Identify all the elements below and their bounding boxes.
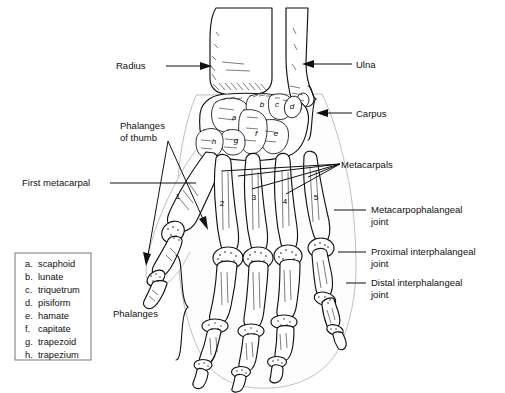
legend-key-g: g. — [25, 337, 33, 347]
metacarpal-number-5: 5 — [314, 193, 319, 202]
metacarpal-number-1: 1 — [176, 192, 181, 201]
legend-label-lunate: lunate — [38, 272, 63, 282]
carpal-marker-e: e — [274, 129, 279, 138]
label-ulna: Ulna — [356, 59, 376, 70]
legend-label-pisiform: pisiform — [38, 298, 71, 308]
legend-label-capitate: capitate — [38, 324, 71, 334]
carpal-bones-legend: a. scaphoid b. lunate c. triquetrum d. p… — [15, 253, 91, 360]
metacarpal-number-4: 4 — [283, 197, 288, 206]
label-pip-joint-line1: Proximal interphalangeal — [371, 246, 476, 257]
legend-key-c: c. — [25, 285, 32, 295]
label-mcp-joint-line1: Metacarpophalangeal — [371, 204, 462, 215]
legend-key-e: e. — [25, 311, 33, 321]
legend-key-a: a. — [25, 259, 33, 269]
carpal-marker-g: g — [234, 136, 239, 145]
label-dip-joint-line1: Distal interphalangeal — [371, 277, 462, 288]
label-mcp-joint-line2: joint — [370, 216, 389, 227]
carpal-marker-d: d — [290, 102, 295, 111]
label-phalanges: Phalanges — [113, 308, 158, 319]
legend-label-trapezium: trapezium — [38, 350, 79, 360]
label-thumb-phalanges-line1: Phalanges — [120, 120, 165, 131]
label-thumb-phalanges-line2: of thumb — [120, 132, 157, 143]
figure-canvas: 1 2 3 4 5 a b c d e f g h — [0, 0, 505, 393]
label-carpus: Carpus — [356, 108, 387, 119]
metacarpal-number-3: 3 — [252, 193, 257, 202]
legend-label-scaphoid: scaphoid — [38, 259, 75, 269]
legend-label-triquetrum: triquetrum — [38, 285, 80, 295]
label-metacarpals: Metacarpals — [341, 159, 393, 170]
label-dip-joint-line2: joint — [370, 289, 389, 300]
carpal-marker-b: b — [260, 100, 265, 109]
legend-key-f: f. — [25, 324, 30, 334]
legend-key-d: d. — [25, 298, 33, 308]
legend-key-b: b. — [25, 272, 33, 282]
carpal-marker-h: h — [212, 137, 217, 146]
radius-bone — [210, 8, 272, 96]
carpal-marker-a: a — [232, 113, 237, 122]
legend-label-hamate: hamate — [38, 311, 69, 321]
legend-label-trapezoid: trapezoid — [38, 337, 76, 347]
legend-key-h: h. — [25, 350, 33, 360]
label-pip-joint-line2: joint — [370, 258, 389, 269]
metacarpal-number-2: 2 — [220, 199, 225, 208]
label-radius: Radius — [116, 60, 146, 71]
label-first-metacarpal: First metacarpal — [22, 177, 90, 188]
carpal-marker-c: c — [275, 100, 279, 109]
